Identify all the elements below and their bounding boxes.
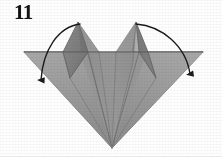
origami-illustration [0,0,222,157]
step-number-label: 11 [14,2,33,23]
bottom-divider [0,156,222,157]
origami-figure: 11 [0,0,222,157]
